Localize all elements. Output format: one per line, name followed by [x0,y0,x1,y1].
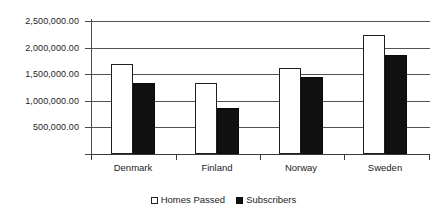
legend-entry-subscribers: Subscribers [236,195,296,205]
bar-homes-passed-norway [279,68,301,154]
legend-label-homes-passed: Homes Passed [161,195,225,205]
x-axis-label-finland: Finland [172,163,262,173]
plot-area [91,21,430,154]
y-tick-500000 [85,127,92,128]
y-tick-label-2500000: 2,500,000.00 [0,17,79,26]
bar-subscribers-sweden [385,55,407,155]
legend-swatch-filled-square-icon [236,197,243,204]
legend-entry-homes-passed: Homes Passed [151,195,225,205]
y-tick-label-1500000: 1,500,000.00 [0,70,79,79]
bar-subscribers-finland [217,108,239,154]
x-tick-start [91,154,92,160]
x-tick-finland-norway [260,154,261,160]
x-tick-denmark-finland [176,154,177,160]
x-axis-label-denmark: Denmark [88,163,178,173]
x-axis-label-norway: Norway [256,163,346,173]
chart-legend: Homes Passed Subscribers [0,195,447,205]
y-tick-2500000 [85,21,92,22]
y-tick-2000000 [85,48,92,49]
y-axis-line [91,19,92,156]
bar-chart: 2,500,000.00 2,000,000.00 1,500,000.00 1… [0,0,447,223]
bar-homes-passed-denmark [111,64,133,154]
gridline-2500000 [91,21,430,22]
bar-subscribers-norway [301,77,323,154]
bar-subscribers-denmark [133,83,155,154]
y-tick-1500000 [85,74,92,75]
y-tick-label-500000: 500,000.00 [0,123,79,132]
bar-homes-passed-finland [195,83,217,154]
x-axis-label-sweden: Sweden [340,163,430,173]
y-tick-1000000 [85,101,92,102]
legend-label-subscribers: Subscribers [246,195,296,205]
bar-homes-passed-sweden [363,35,385,154]
legend-swatch-open-square-icon [151,197,158,204]
x-tick-end [429,154,430,160]
y-tick-label-1000000: 1,000,000.00 [0,97,79,106]
x-tick-norway-sweden [344,154,345,160]
y-tick-label-2000000: 2,000,000.00 [0,44,79,53]
